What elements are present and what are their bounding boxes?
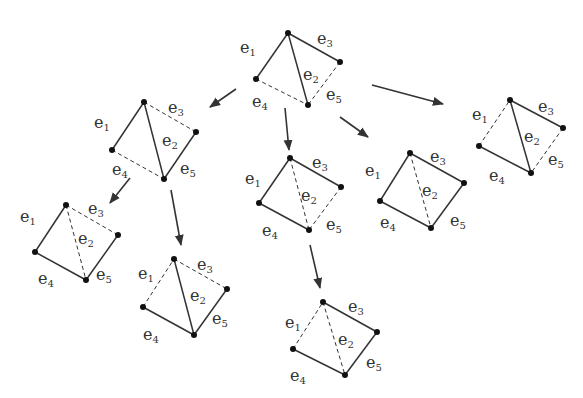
edge-label-e1: e1 bbox=[285, 313, 301, 333]
edge-label-e1: e1 bbox=[240, 38, 256, 58]
edge-label-e3: e3 bbox=[538, 97, 554, 117]
edge-label-e5: e5 bbox=[96, 265, 112, 285]
transition-arrow bbox=[372, 85, 443, 104]
graph-g3: e1e2e3e4e5 bbox=[245, 153, 344, 241]
vertex-R bbox=[560, 125, 566, 131]
diagram-svg: e1e2e3e4e5e1e2e3e4e5e1e2e3e4e5e1e2e3e4e5… bbox=[0, 0, 583, 398]
edge-label-e4: e4 bbox=[252, 92, 268, 112]
vertex-B bbox=[161, 176, 167, 182]
vertex-T bbox=[287, 155, 293, 161]
edge-label-e4: e4 bbox=[112, 160, 128, 180]
edge-label-e1: e1 bbox=[245, 169, 261, 189]
vertex-R bbox=[374, 329, 380, 335]
vertex-B bbox=[306, 227, 312, 233]
edge-label-e3: e3 bbox=[168, 98, 184, 118]
vertex-B bbox=[191, 332, 197, 338]
graph-transition-diagram: e1e2e3e4e5e1e2e3e4e5e1e2e3e4e5e1e2e3e4e5… bbox=[0, 0, 583, 398]
vertex-B bbox=[305, 102, 311, 108]
edge-e1-solid bbox=[259, 158, 290, 203]
vertex-R bbox=[337, 59, 343, 65]
edge-label-e1: e1 bbox=[365, 161, 381, 181]
vertex-L bbox=[290, 346, 296, 352]
vertex-R bbox=[338, 184, 344, 190]
edge-e1-solid bbox=[256, 33, 288, 79]
edge-label-e5: e5 bbox=[180, 159, 196, 179]
vertex-L bbox=[476, 143, 482, 149]
vertex-T bbox=[407, 150, 413, 156]
graph-g5: e1e2e3e4e5 bbox=[472, 97, 566, 186]
edge-e1-solid bbox=[380, 153, 410, 201]
edge-e1-solid bbox=[35, 205, 66, 252]
edge-label-e2: e2 bbox=[78, 229, 94, 249]
vertex-R bbox=[193, 129, 199, 135]
edge-label-e2: e2 bbox=[338, 330, 354, 350]
edge-label-e5: e5 bbox=[450, 211, 466, 231]
edge-e2-solid bbox=[144, 102, 164, 179]
arrows-layer bbox=[110, 85, 443, 288]
edge-label-e5: e5 bbox=[326, 85, 342, 105]
edge-label-e2: e2 bbox=[162, 131, 178, 151]
vertex-L bbox=[253, 76, 259, 82]
graph-g8: e1e2e3e4e5 bbox=[285, 297, 382, 386]
edge-label-e1: e1 bbox=[20, 207, 36, 227]
vertex-R bbox=[461, 180, 467, 186]
vertex-L bbox=[32, 249, 38, 255]
edge-label-e1: e1 bbox=[94, 113, 110, 133]
edge-e4-solid bbox=[293, 349, 345, 375]
edge-label-e2: e2 bbox=[422, 181, 438, 201]
edge-label-e1: e1 bbox=[138, 264, 154, 284]
transition-arrow bbox=[110, 178, 130, 203]
vertex-L bbox=[109, 147, 115, 153]
edge-label-e3: e3 bbox=[312, 153, 328, 173]
vertex-L bbox=[377, 198, 383, 204]
edge-label-e2: e2 bbox=[301, 186, 317, 206]
graph-g6: e1e2e3e4e5 bbox=[20, 199, 121, 289]
transition-arrow bbox=[285, 108, 289, 150]
vertex-T bbox=[507, 97, 513, 103]
graph-root: e1e2e3e4e5 bbox=[240, 29, 343, 112]
graphs-layer: e1e2e3e4e5e1e2e3e4e5e1e2e3e4e5e1e2e3e4e5… bbox=[20, 29, 566, 386]
edge-label-e3: e3 bbox=[348, 297, 364, 317]
edge-label-e3: e3 bbox=[317, 29, 333, 49]
edge-label-e3: e3 bbox=[197, 255, 213, 275]
edge-label-e4: e4 bbox=[489, 166, 505, 186]
edge-label-e4: e4 bbox=[290, 366, 306, 386]
edge-label-e4: e4 bbox=[262, 221, 278, 241]
edge-e4-solid bbox=[479, 146, 531, 173]
edge-label-e1: e1 bbox=[472, 105, 488, 125]
transition-arrow bbox=[171, 190, 181, 245]
graph-g4: e1e2e3e4e5 bbox=[365, 147, 467, 233]
vertex-T bbox=[320, 299, 326, 305]
transition-arrow bbox=[310, 245, 320, 288]
graph-g2: e1e2e3e4e5 bbox=[94, 98, 199, 182]
vertex-T bbox=[285, 30, 291, 36]
edge-label-e4: e4 bbox=[143, 325, 159, 345]
transition-arrow bbox=[340, 117, 368, 137]
vertex-B bbox=[83, 277, 89, 283]
edge-e3-solid bbox=[510, 100, 563, 128]
edge-label-e5: e5 bbox=[326, 215, 342, 235]
vertex-L bbox=[140, 304, 146, 310]
vertex-R bbox=[115, 232, 121, 238]
edge-label-e4: e4 bbox=[38, 269, 54, 289]
vertex-B bbox=[428, 225, 434, 231]
edge-label-e2: e2 bbox=[190, 286, 206, 306]
graph-g7: e1e2e3e4e5 bbox=[138, 255, 230, 345]
edge-label-e2: e2 bbox=[524, 127, 540, 147]
vertex-B bbox=[528, 170, 534, 176]
edge-label-e4: e4 bbox=[380, 213, 396, 233]
vertex-R bbox=[224, 286, 230, 292]
edge-label-e5: e5 bbox=[548, 150, 564, 170]
edge-label-e5: e5 bbox=[366, 353, 382, 373]
edge-label-e5: e5 bbox=[212, 309, 228, 329]
edge-label-e3: e3 bbox=[88, 199, 104, 219]
vertex-L bbox=[256, 200, 262, 206]
edge-label-e3: e3 bbox=[430, 147, 446, 167]
transition-arrow bbox=[210, 89, 236, 107]
vertex-T bbox=[63, 202, 69, 208]
vertex-T bbox=[141, 99, 147, 105]
edge-e1-solid bbox=[112, 102, 144, 150]
vertex-B bbox=[342, 372, 348, 378]
vertex-T bbox=[171, 256, 177, 262]
edge-label-e2: e2 bbox=[303, 65, 319, 85]
